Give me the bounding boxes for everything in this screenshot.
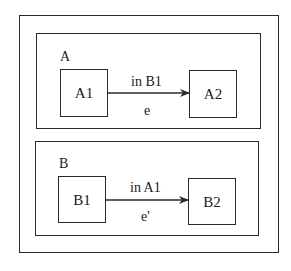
transition-arrows (0, 0, 291, 271)
